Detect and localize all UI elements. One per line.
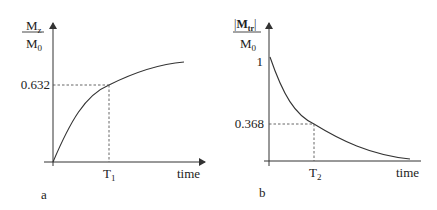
figure-canvas: Mz M0 0.632 T1 time a |Mtr| M0 1 0.368 T… [0,0,437,210]
ylabel-b-numerator: |Mtr| [234,17,256,33]
growth-curve [53,62,184,162]
ylabel-a-denominator: M0 [26,36,43,53]
ytick-1: 1 [257,54,264,69]
ytick-0632: 0.632 [21,77,50,92]
ylabel-b-denominator: M0 [240,36,257,53]
panel-letter-a: a [41,187,47,202]
ytick-0368: 0.368 [235,116,264,131]
xtick-T1: T1 [103,166,115,183]
panel-letter-b: b [259,185,266,200]
panel-a: Mz M0 0.632 T1 time a [21,18,205,202]
decay-curve [270,57,410,159]
panel-b: |Mtr| M0 1 0.368 T2 time b [233,17,421,200]
xlabel-a: time [177,166,200,181]
xlabel-b: time [396,165,419,180]
xtick-T2: T2 [309,165,321,182]
